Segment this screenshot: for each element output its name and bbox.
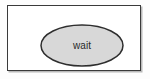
diagram-canvas: wait [0,0,150,79]
diagram-frame: wait [7,5,141,71]
wait-node-ellipse[interactable] [39,23,125,68]
